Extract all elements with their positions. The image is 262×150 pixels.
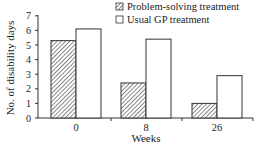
y-tick-label: 7 (26, 10, 31, 21)
y-tick-label: 3 (26, 69, 31, 80)
x-tick-label: 26 (212, 122, 223, 133)
legend: Problem-solving treatment Usual GP treat… (116, 1, 239, 25)
y-axis: 01234567 (26, 10, 38, 123)
hatched-swatch-icon (116, 3, 123, 10)
bar-problem-solving-week-26 (192, 103, 217, 118)
bar-problem-solving-week-0 (51, 41, 76, 118)
bar-usual-gp-week-8 (146, 39, 171, 118)
x-axis-label: Weeks (131, 132, 160, 144)
legend-label: Usual GP treatment (127, 14, 210, 25)
bars (51, 29, 242, 118)
y-tick-label: 4 (26, 54, 31, 65)
legend-label: Problem-solving treatment (127, 1, 239, 12)
y-tick-label: 2 (26, 83, 31, 94)
legend-item-usual-gp: Usual GP treatment (116, 14, 210, 25)
bar-chart: No. of disability days 01234567 0826 Wee… (0, 0, 262, 150)
y-axis-label: No. of disability days (4, 21, 16, 116)
y-tick-label: 1 (26, 98, 31, 109)
bar-usual-gp-week-26 (217, 76, 242, 118)
legend-item-problem-solving: Problem-solving treatment (116, 1, 239, 12)
x-tick-label: 0 (73, 122, 78, 133)
y-tick-label: 5 (26, 40, 31, 51)
y-tick-label: 6 (26, 25, 31, 36)
bar-usual-gp-week-0 (76, 29, 101, 118)
open-swatch-icon (116, 16, 123, 23)
bar-problem-solving-week-8 (121, 83, 146, 118)
y-tick-label: 0 (26, 113, 31, 124)
